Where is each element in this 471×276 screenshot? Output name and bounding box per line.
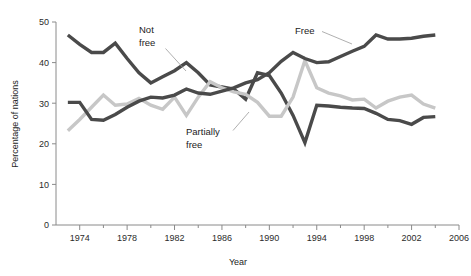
x-tick-label: 1982 [165, 233, 185, 243]
x-tick-label: 1974 [70, 233, 90, 243]
y-tick-label: 0 [44, 220, 49, 230]
label-partially-free-line2: free [186, 139, 202, 150]
y-tick-label: 20 [39, 139, 49, 149]
x-tick-label: 1994 [307, 233, 327, 243]
x-tick-label: 2006 [449, 233, 469, 243]
label-not-free-line2: free [139, 37, 155, 48]
x-axis-title: Year [229, 257, 247, 267]
x-tick-label: 1978 [117, 233, 137, 243]
label-partially-free-line1: Partially [186, 126, 220, 137]
y-tick-label: 50 [39, 17, 49, 27]
y-tick-label: 30 [39, 99, 49, 109]
label-not-free-line1: Not [139, 24, 154, 35]
x-tick-label: 1986 [212, 233, 232, 243]
y-axis-title: Percentage of nations [10, 80, 20, 168]
x-tick-label: 1990 [259, 233, 279, 243]
chart-container: 01020304050 1974197819821986199019941998… [0, 0, 471, 276]
line-chart: 01020304050 1974197819821986199019941998… [0, 0, 471, 276]
x-axis-tick-labels: 197419781982198619901994199820022006 [70, 233, 469, 243]
y-tick-label: 40 [39, 58, 49, 68]
x-tick-label: 1998 [354, 233, 374, 243]
x-tick-label: 2002 [402, 233, 422, 243]
label-free: Free [295, 25, 315, 36]
y-tick-label: 10 [39, 180, 49, 190]
